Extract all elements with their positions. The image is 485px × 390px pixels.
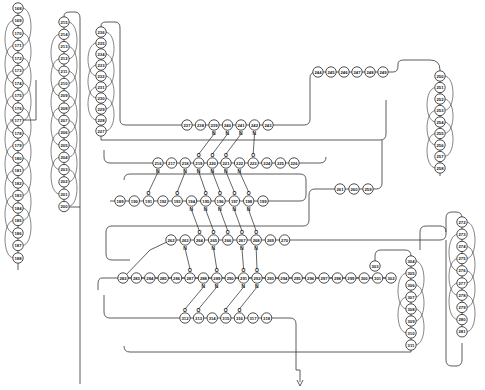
residue-304: 304 <box>406 256 416 266</box>
svg-text:213: 213 <box>61 44 69 49</box>
svg-text:214: 214 <box>61 32 69 37</box>
svg-text:178: 178 <box>15 131 23 136</box>
residue-255: 255 <box>435 128 445 138</box>
svg-text:203: 203 <box>61 167 69 172</box>
residue-258: 258 <box>435 163 445 173</box>
svg-text:O: O <box>247 190 251 196</box>
residue-248: 248 <box>365 67 375 77</box>
residue-223: 223 <box>248 158 258 168</box>
svg-text:N: N <box>204 206 208 212</box>
svg-text:N: N <box>240 245 244 251</box>
residue-195: 195 <box>201 196 211 206</box>
residue-249: 249 <box>378 67 388 77</box>
residue-276: 276 <box>457 266 467 276</box>
residue-194: 194 <box>186 196 196 206</box>
residue-224: 224 <box>262 158 272 168</box>
hydrogen-bonds: NONONONONONONONONONONONONONONONONONONONO… <box>147 130 259 313</box>
svg-text:168: 168 <box>15 6 23 11</box>
svg-text:233: 233 <box>98 63 106 68</box>
svg-text:245: 245 <box>328 70 336 75</box>
svg-text:O: O <box>197 152 201 158</box>
svg-text:274: 274 <box>459 244 467 249</box>
svg-text:N: N <box>212 245 216 251</box>
svg-text:259: 259 <box>365 187 373 192</box>
svg-text:256: 256 <box>437 143 445 148</box>
residue-298: 298 <box>332 273 342 283</box>
svg-text:189: 189 <box>117 199 125 204</box>
residue-207: 207 <box>59 115 69 125</box>
svg-text:218: 218 <box>182 161 190 166</box>
residue-302: 302 <box>386 273 396 283</box>
svg-text:239: 239 <box>211 123 219 128</box>
svg-text:195: 195 <box>202 199 210 204</box>
svg-text:292: 292 <box>254 276 262 281</box>
svg-text:184: 184 <box>15 206 23 211</box>
svg-text:269: 269 <box>267 238 275 243</box>
svg-text:187: 187 <box>15 243 23 248</box>
residue-173: 173 <box>13 65 23 75</box>
svg-text:301: 301 <box>374 276 382 281</box>
svg-text:N: N <box>226 130 230 136</box>
svg-text:O: O <box>242 267 246 273</box>
residue-238: 238 <box>195 120 205 130</box>
residue-313: 313 <box>193 313 203 323</box>
residue-311: 311 <box>406 340 416 350</box>
residue-225: 225 <box>275 158 285 168</box>
helix-backbone-loops <box>5 8 475 345</box>
residue-230: 230 <box>96 93 106 103</box>
residue-199: 199 <box>258 196 268 206</box>
residue-216: 216 <box>153 158 163 168</box>
residue-257: 257 <box>435 151 445 161</box>
svg-text:O: O <box>240 229 244 235</box>
residue-212: 212 <box>59 54 69 64</box>
svg-text:O: O <box>226 229 230 235</box>
svg-text:283: 283 <box>133 276 141 281</box>
svg-text:173: 173 <box>15 68 23 73</box>
diagram-canvas: NONONONONONONONONONONONONONONONONONONONO… <box>0 0 485 390</box>
svg-text:236: 236 <box>98 30 106 35</box>
residue-289: 289 <box>212 273 222 283</box>
residue-200: 200 <box>59 201 69 211</box>
svg-text:262: 262 <box>168 238 176 243</box>
residue-263: 263 <box>180 235 190 245</box>
residue-290: 290 <box>225 273 235 283</box>
residue-288: 288 <box>198 273 208 283</box>
residue-292: 292 <box>252 273 262 283</box>
residue-297: 297 <box>319 273 329 283</box>
svg-text:219: 219 <box>195 161 203 166</box>
svg-text:231: 231 <box>98 85 106 90</box>
residue-211: 211 <box>59 66 69 76</box>
svg-text:310: 310 <box>408 331 416 336</box>
svg-text:198: 198 <box>245 199 253 204</box>
svg-text:177: 177 <box>15 118 23 123</box>
svg-text:201: 201 <box>61 192 69 197</box>
svg-text:235: 235 <box>98 41 106 46</box>
svg-text:286: 286 <box>173 276 181 281</box>
svg-text:N: N <box>238 168 242 174</box>
residue-196: 196 <box>215 196 225 206</box>
svg-text:O: O <box>212 229 216 235</box>
svg-text:225: 225 <box>277 161 285 166</box>
svg-text:291: 291 <box>240 276 248 281</box>
svg-text:209: 209 <box>61 93 69 98</box>
residue-198: 198 <box>244 196 254 206</box>
svg-text:183: 183 <box>15 193 23 198</box>
svg-text:296: 296 <box>307 276 315 281</box>
svg-text:O: O <box>204 190 208 196</box>
svg-text:212: 212 <box>61 56 69 61</box>
residue-181: 181 <box>13 165 23 175</box>
svg-text:255: 255 <box>437 131 445 136</box>
svg-text:276: 276 <box>459 268 467 273</box>
residue-308: 308 <box>406 304 416 314</box>
residue-278: 278 <box>457 290 467 300</box>
svg-text:244: 244 <box>315 70 323 75</box>
svg-text:N: N <box>190 206 194 212</box>
residue-296: 296 <box>305 273 315 283</box>
svg-text:258: 258 <box>437 166 445 171</box>
svg-text:302: 302 <box>388 276 396 281</box>
residue-316: 316 <box>234 313 244 323</box>
svg-text:O: O <box>215 267 219 273</box>
svg-text:207: 207 <box>61 118 69 123</box>
residue-279: 279 <box>457 302 467 312</box>
svg-text:253: 253 <box>437 108 445 113</box>
